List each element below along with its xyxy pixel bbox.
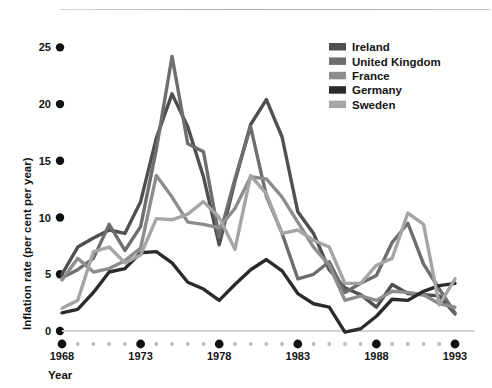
- x-tick-minor-dot: [186, 342, 190, 346]
- y-tick-label: 10: [39, 212, 51, 224]
- legend-swatch-united-kingdom: [329, 57, 346, 65]
- x-tick-label: 1983: [286, 350, 310, 362]
- y-tick-dot: [56, 100, 64, 108]
- x-tick-minor-dot: [92, 342, 96, 346]
- x-tick-minor-dot: [154, 342, 158, 346]
- x-tick-major-dot: [372, 340, 381, 349]
- x-tick-major-dot: [58, 340, 67, 349]
- legend-swatch-germany: [329, 86, 346, 94]
- legend-label-ireland: Ireland: [352, 41, 390, 53]
- x-tick-minor-dot: [359, 342, 363, 346]
- x-tick-major-dot: [215, 340, 224, 349]
- x-tick-major-dot: [293, 340, 302, 349]
- y-axis: 0510152025: [39, 41, 64, 337]
- chart-canvas: 0510152025 196819731978198319881993 Infl…: [0, 0, 492, 388]
- legend-swatch-sweden: [329, 101, 346, 109]
- x-tick-minor-dot: [280, 342, 284, 346]
- x-axis-title: Year: [48, 369, 73, 381]
- legend-swatch-france: [329, 72, 346, 80]
- x-tick-minor-dot: [343, 342, 347, 346]
- legend-label-sweden: Sweden: [352, 99, 395, 111]
- x-tick-minor-dot: [390, 342, 394, 346]
- x-tick-minor-dot: [327, 342, 331, 346]
- inflation-line-chart: 0510152025 196819731978198319881993 Infl…: [0, 0, 492, 388]
- x-tick-label: 1993: [443, 350, 467, 362]
- x-tick-label: 1978: [207, 350, 231, 362]
- legend-label-germany: Germany: [352, 84, 402, 96]
- x-tick-label: 1973: [128, 350, 152, 362]
- y-tick-dot: [56, 43, 64, 51]
- x-tick-minor-dot: [76, 342, 80, 346]
- y-tick-label: 25: [39, 41, 51, 53]
- x-tick-minor-dot: [107, 342, 111, 346]
- y-axis-title: Inflation rate (per cent per year): [21, 157, 33, 330]
- x-tick-minor-dot: [170, 342, 174, 346]
- y-tick-label: 0: [45, 325, 51, 337]
- page-rule-line: [60, 9, 490, 10]
- x-tick-label: 1988: [364, 350, 388, 362]
- legend-label-france: France: [352, 70, 390, 82]
- series-line-ireland: [62, 94, 455, 314]
- x-tick-minor-dot: [233, 342, 237, 346]
- x-tick-major-dot: [136, 340, 145, 349]
- x-tick-minor-dot: [123, 342, 127, 346]
- x-tick-minor-dot: [437, 342, 441, 346]
- legend: IrelandUnited KingdomFranceGermanySweden: [329, 41, 441, 111]
- x-tick-major-dot: [451, 340, 460, 349]
- y-tick-label: 20: [39, 98, 51, 110]
- y-tick-label: 15: [39, 155, 51, 167]
- y-tick-dot: [56, 213, 64, 221]
- x-tick-minor-dot: [406, 342, 410, 346]
- x-axis: 196819731978198319881993: [50, 331, 475, 362]
- data-series-group: [62, 56, 455, 332]
- x-tick-label: 1968: [50, 350, 74, 362]
- x-tick-minor-dot: [249, 342, 253, 346]
- x-tick-minor-dot: [264, 342, 268, 346]
- y-tick-dot: [56, 157, 64, 165]
- x-tick-minor-dot: [422, 342, 426, 346]
- legend-swatch-ireland: [329, 43, 346, 51]
- y-tick-label: 5: [45, 268, 51, 280]
- x-tick-minor-dot: [312, 342, 316, 346]
- legend-label-united-kingdom: United Kingdom: [352, 56, 441, 68]
- x-tick-minor-dot: [202, 342, 206, 346]
